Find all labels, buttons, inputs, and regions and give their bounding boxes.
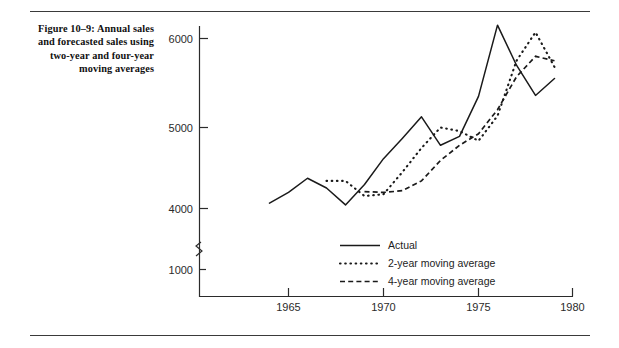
legend-label-4-year-moving-average: 4-year moving average <box>388 275 496 287</box>
series-line-actual <box>270 25 555 205</box>
y-tick-label-1000: 1000 <box>169 264 193 276</box>
legend-label-2-year-moving-average: 2-year moving average <box>388 257 496 269</box>
legend-label-actual: Actual <box>388 239 417 251</box>
figure-container: Figure 10–9: Annual sales and forecasted… <box>0 0 619 348</box>
y-tick-label-5000: 5000 <box>169 122 193 134</box>
series-line-4-year-moving-average <box>365 56 555 192</box>
y-tick-label-4000: 4000 <box>169 203 193 215</box>
x-tick-label-1970: 1970 <box>371 301 395 313</box>
chart-svg: 6000 5000 4000 1000 1965 1970 1975 1980 … <box>0 0 619 348</box>
chart-plot-area: 6000 5000 4000 1000 1965 1970 1975 1980 … <box>0 0 619 348</box>
x-tick-label-1975: 1975 <box>466 301 490 313</box>
chart-legend: Actual 2-year moving average 4-year movi… <box>340 239 496 287</box>
x-tick-label-1965: 1965 <box>276 301 300 313</box>
series-line-2-year-moving-average <box>327 32 555 196</box>
y-tick-label-6000: 6000 <box>169 33 193 45</box>
x-tick-label-1980: 1980 <box>560 301 584 313</box>
y-axis-break-icon <box>196 242 202 256</box>
